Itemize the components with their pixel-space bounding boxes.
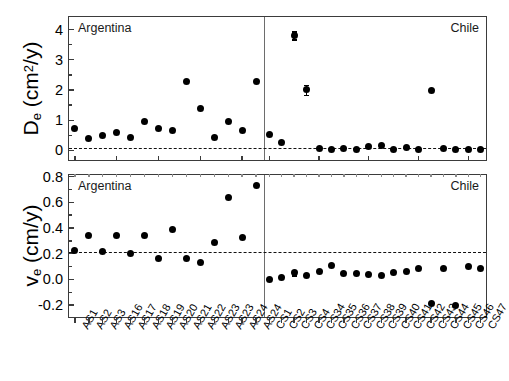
- datapoint-bottom-AS22-9: [197, 259, 204, 266]
- xtick-18: [318, 318, 319, 323]
- ytick-label-top-0: 0: [55, 142, 63, 158]
- xtick-top-arg-2: [158, 156, 159, 161]
- xtick-mirror-9: [200, 174, 201, 177]
- datapoint-top-CS1-0: [266, 131, 273, 138]
- datapoint-bottom-CS35-5: [328, 262, 335, 269]
- xtick-6: [158, 318, 159, 323]
- xtick-29: [455, 318, 456, 323]
- datapoint-bottom-CS41-11: [403, 268, 410, 275]
- xtick-22: [368, 318, 369, 323]
- datapoint-top-AS22-9: [197, 105, 204, 112]
- xtick-mirror-26: [418, 174, 419, 177]
- xtick-mirror-23: [381, 174, 382, 177]
- errorbar-cap-top-Chile-3-1: [304, 95, 309, 96]
- xtick-14: [269, 318, 270, 323]
- datapoint-top-CS37-7: [353, 146, 360, 153]
- xtick-31: [480, 318, 481, 323]
- panel-caption-left-top: Argentina: [78, 21, 132, 35]
- ytick-minor-bottom-3: [68, 214, 72, 215]
- xtick-top-chi-0: [269, 156, 270, 161]
- datapoint-top-CS40-10: [390, 146, 397, 153]
- panel-caption-left-bottom: Argentina: [78, 179, 132, 193]
- xtick-mirror-29: [455, 174, 456, 177]
- ytick-major-bottom-1: [68, 279, 74, 280]
- xtick-12: [241, 318, 242, 323]
- panel-caption-right-bottom: Chile: [451, 179, 480, 193]
- xtick-27: [430, 318, 431, 323]
- xtick-15: [281, 318, 282, 323]
- ytick-label-top-3: 3: [55, 52, 63, 68]
- ytick-minor-bottom-1: [68, 266, 72, 267]
- datapoint-bottom-AS23-11: [225, 194, 232, 201]
- datapoint-bottom-CS44-14: [440, 265, 447, 272]
- datapoint-top-CS3-2: [291, 32, 298, 39]
- xtick-mirror-18: [318, 174, 319, 177]
- ytick-major-bottom-5: [68, 176, 74, 177]
- datapoint-bottom-AS23-10: [211, 239, 218, 246]
- datapoint-top-AS16-3: [113, 129, 120, 136]
- datapoint-top-AS23-10: [211, 134, 218, 141]
- xtick-top-arg-1: [116, 156, 117, 161]
- datapoint-bottom-CS1-0: [266, 276, 273, 283]
- xtick-mirror-28: [443, 174, 444, 177]
- xtick-9: [200, 318, 201, 323]
- xtick-mirror-6: [158, 174, 159, 177]
- xtick-mirror-31: [480, 174, 481, 177]
- xtick-mirror-0: [74, 174, 75, 177]
- datapoint-bottom-CS39-9: [378, 272, 385, 279]
- xtick-mirror-19: [331, 174, 332, 177]
- xtick-5: [144, 318, 145, 323]
- ytick-minor-top-0: [68, 135, 72, 136]
- xtick-mirror-12: [241, 174, 242, 177]
- country-divider-top: [264, 17, 265, 160]
- xtick-top-chi-3: [418, 156, 419, 161]
- xtick-mirror-10: [214, 174, 215, 177]
- datapoint-bottom-AS20-7: [169, 226, 176, 233]
- ytick-major-bottom-3: [68, 227, 74, 228]
- xtick-mirror-25: [405, 174, 406, 177]
- ytick-minor-top-3: [68, 44, 72, 45]
- xtick-mirror-4: [130, 174, 131, 177]
- datapoint-bottom-CS46-16: [465, 263, 472, 270]
- xtick-20: [343, 318, 344, 323]
- xtick-16: [293, 318, 294, 323]
- xtick-30: [468, 318, 469, 323]
- xtick-4: [130, 318, 131, 323]
- datapoint-top-CS34-4: [316, 145, 323, 152]
- reference-line-top: [69, 148, 486, 149]
- xtick-8: [186, 318, 187, 323]
- datapoint-bottom-AS24-12: [239, 234, 246, 241]
- xtick-3: [116, 318, 117, 323]
- datapoint-bottom-CS4-3: [303, 272, 310, 279]
- datapoint-top-CS39-9: [378, 142, 385, 149]
- xtick-28: [443, 318, 444, 323]
- xtick-13: [255, 318, 256, 323]
- datapoint-bottom-CS34-4: [316, 268, 323, 275]
- xtick-1: [88, 318, 89, 323]
- plot-frame-bottom: [68, 174, 487, 318]
- ytick-label-top-1: 1: [55, 112, 63, 128]
- xtick-top-arg-0: [74, 156, 75, 161]
- xtick-top-chi-2: [368, 156, 369, 161]
- datapoint-bottom-AS24-13: [253, 182, 260, 189]
- xtick-mirror-17: [306, 174, 307, 177]
- ytick-label-bottom-2: 0.2: [43, 246, 63, 262]
- datapoint-top-AS19-6: [155, 125, 162, 132]
- datapoint-top-CS35-5: [328, 146, 335, 153]
- xtick-mirror-15: [281, 174, 282, 177]
- ytick-minor-bottom-0: [68, 292, 72, 293]
- ytick-major-bottom-4: [68, 202, 74, 203]
- xtick-25: [405, 318, 406, 323]
- ytick-major-top-2: [68, 89, 74, 90]
- ytick-major-bottom-0: [68, 304, 74, 305]
- datapoint-top-CS42-12: [415, 146, 422, 153]
- xtick-10: [214, 318, 215, 323]
- xtick-17: [306, 318, 307, 323]
- xtick-mirror-13: [255, 174, 256, 177]
- ytick-label-top-2: 2: [55, 82, 63, 98]
- ytick-label-bottom-1: 0.0: [43, 271, 63, 287]
- ytick-major-top-3: [68, 59, 74, 60]
- datapoint-bottom-CS3-2: [291, 269, 298, 276]
- xtick-mirror-21: [356, 174, 357, 177]
- yaxis-title-bottom: ve (cm/y): [19, 171, 44, 321]
